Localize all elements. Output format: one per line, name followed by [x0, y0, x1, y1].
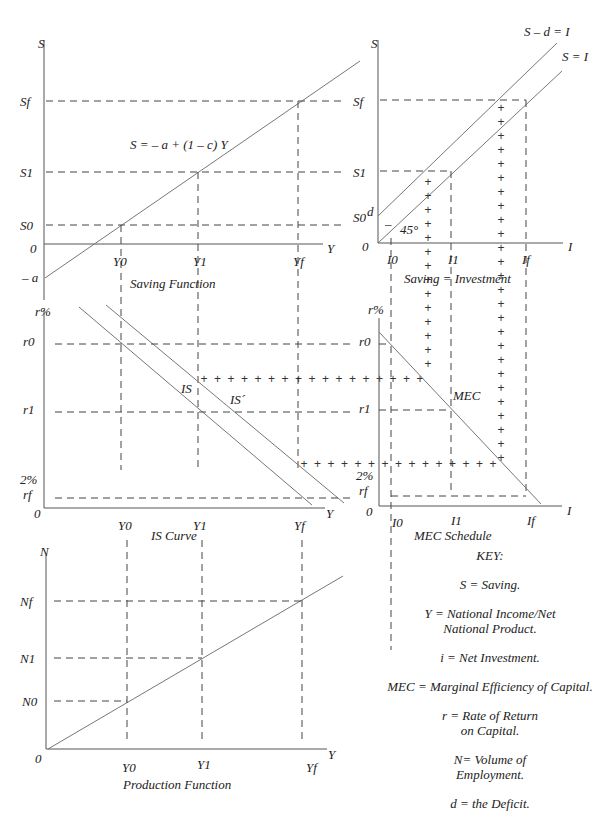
- plus-marker: +: [416, 372, 423, 386]
- plus-marker: +: [497, 395, 504, 409]
- key-item-income: Y = National Income/Net National Product…: [375, 606, 605, 636]
- r0-label: r0: [359, 334, 371, 349]
- i0-label: I0: [386, 252, 398, 267]
- origin-label: 0: [366, 504, 373, 519]
- origin-label: 0: [30, 241, 37, 256]
- saving-investment-caption: Saving = Investment: [404, 271, 511, 286]
- plus-marker: +: [462, 457, 469, 471]
- s-minus-d-label: S – d = I: [524, 24, 570, 39]
- mec-line: [379, 332, 541, 504]
- plus-marker: +: [497, 115, 504, 129]
- plus-marker: +: [497, 325, 504, 339]
- plus-marker: +: [322, 372, 329, 386]
- plus-marker: +: [314, 457, 321, 471]
- production-function-caption: Production Function: [122, 777, 231, 792]
- plus-marker: +: [449, 457, 456, 471]
- r0-label: r0: [23, 334, 35, 349]
- yf-label: Yf: [294, 518, 307, 533]
- plus-marker: +: [424, 301, 431, 315]
- key-item-deficit: d = the Deficit.: [375, 796, 605, 811]
- plus-marker: +: [308, 372, 315, 386]
- plus-marker: +: [497, 199, 504, 213]
- plus-marker: +: [424, 175, 431, 189]
- is-prime-label: IS´: [229, 392, 246, 407]
- plus-marker: +: [497, 437, 504, 451]
- key-legend: KEY: S = Saving. Y = National Income/Net…: [375, 548, 605, 825]
- s1-label: S1: [20, 165, 33, 180]
- plus-marker: +: [497, 101, 504, 115]
- production-line: [48, 576, 343, 749]
- nf-label: Nf: [19, 594, 35, 609]
- plus-marker: +: [424, 343, 431, 357]
- r-axis-label: r%: [368, 302, 384, 317]
- plus-marker: +: [424, 189, 431, 203]
- y-axis-end-label: Y: [326, 506, 335, 521]
- y0-label: Y0: [113, 254, 127, 269]
- plus-marker: +: [349, 372, 356, 386]
- i1-label: I1: [447, 252, 459, 267]
- plus-marker: +: [497, 381, 504, 395]
- i-axis-end-label: I: [567, 239, 573, 254]
- plus-marker: +: [395, 457, 402, 471]
- plus-marker: +: [268, 372, 275, 386]
- plus-marker: +: [327, 457, 334, 471]
- rf-label: rf: [23, 487, 34, 502]
- plus-marker: +: [424, 217, 431, 231]
- if-label: If: [521, 252, 532, 267]
- sf-label: Sf: [20, 94, 33, 109]
- plus-marker: +: [389, 372, 396, 386]
- if-label: If: [526, 513, 537, 528]
- origin-label: 0: [34, 506, 41, 521]
- plus-marker: +: [281, 372, 288, 386]
- is-curve-panel: r% r0 r1 2% rf 0 Y Y0 Y1 Yf IS IS´ IS Cu…: [20, 304, 355, 543]
- origin-label: 0: [35, 751, 42, 766]
- plus-marker: +: [476, 457, 483, 471]
- plus-marker: +: [497, 451, 504, 465]
- s-equals-i-line: [378, 71, 562, 243]
- y0-label: Y0: [118, 518, 132, 533]
- is-prime-line: [106, 305, 344, 503]
- key-item-rate: r = Rate of Return on Capital.: [375, 708, 605, 738]
- key-item-saving: S = Saving.: [375, 577, 605, 592]
- n1-label: N1: [19, 651, 35, 666]
- two-pct-label: 2%: [356, 468, 374, 483]
- n0-label: N0: [21, 694, 38, 709]
- d-label: d: [367, 204, 374, 219]
- saving-line: [45, 61, 360, 278]
- production-function-panel: N Nf N1 N0 0 Y Y0 Y1 Yf Production Funct…: [19, 540, 343, 792]
- key-item-mec: MEC = Marginal Efficiency of Capital.: [375, 679, 605, 694]
- r-axis-label: r%: [35, 304, 51, 319]
- minus-a-label: – a: [21, 270, 39, 285]
- deficit-plus-markers: ++++++++++++++++++++++++++++++++++++++++…: [200, 101, 504, 471]
- plus-marker: +: [489, 457, 496, 471]
- plus-marker: +: [497, 255, 504, 269]
- yf-label: Yf: [306, 760, 319, 775]
- plus-marker: +: [295, 372, 302, 386]
- s0-label: S0: [353, 210, 367, 225]
- mec-schedule-panel: r% r0 r1 2% rf 0 I I0 I1 If MEC MEC Sche…: [356, 302, 572, 543]
- saving-function-panel: S Sf S1 S0 0 – a Y Y0 Y1 Yf S = – a + (1…: [20, 36, 360, 470]
- mec-schedule-caption: MEC Schedule: [413, 528, 492, 543]
- plus-marker: +: [300, 457, 307, 471]
- key-item-investment: i = Net Investment.: [375, 650, 605, 665]
- plus-marker: +: [362, 372, 369, 386]
- plus-marker: +: [497, 283, 504, 297]
- plus-marker: +: [497, 297, 504, 311]
- plus-marker: +: [497, 227, 504, 241]
- mec-label: MEC: [452, 388, 481, 403]
- key-item-employment: N= Volume of Employment.: [375, 752, 605, 782]
- i-axis-end-label: I: [566, 503, 572, 518]
- origin-label: 0: [362, 239, 369, 254]
- s-equals-i-label: S = I: [562, 49, 589, 64]
- plus-marker: +: [497, 423, 504, 437]
- plus-marker: +: [497, 213, 504, 227]
- plus-marker: +: [497, 143, 504, 157]
- s1-label: S1: [353, 165, 366, 180]
- plus-marker: +: [424, 231, 431, 245]
- is-label: IS: [180, 381, 192, 396]
- plus-marker: +: [335, 372, 342, 386]
- plus-marker: +: [424, 287, 431, 301]
- plus-marker: +: [424, 259, 431, 273]
- y-axis-end-label: Y: [328, 747, 337, 762]
- plus-marker: +: [424, 315, 431, 329]
